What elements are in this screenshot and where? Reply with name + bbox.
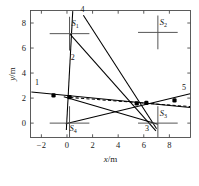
ray-line-5	[66, 94, 190, 124]
data-point-marker	[51, 93, 55, 97]
data-point-marker	[67, 95, 71, 99]
y-tick-label: 0	[22, 118, 26, 128]
line-label-3: 3	[145, 124, 149, 133]
y-tick-label: 6	[22, 43, 26, 53]
x-tick-label: −2	[37, 140, 46, 150]
station-label-S1: S1	[72, 18, 79, 29]
station-crosshair-S2	[138, 16, 178, 50]
x-tick-label: 2	[90, 140, 94, 150]
tick-labels: −20246802468	[22, 18, 172, 150]
x-axis-title: x/m	[103, 154, 118, 164]
data-point-marker	[135, 101, 139, 105]
scatter-plot: −20246802468 12345 S1S2S3S4 x/my/m	[0, 0, 199, 186]
line-label-5: 5	[182, 83, 186, 92]
data-point-marker	[144, 101, 148, 105]
station-label-S3: S3	[160, 108, 167, 119]
y-tick-label: 8	[22, 18, 26, 28]
x-tick-label: 4	[116, 140, 121, 150]
station-labels: S1S2S3S4	[70, 17, 168, 134]
y-axis-title: y/m	[7, 67, 17, 82]
line-label-4: 4	[81, 5, 85, 14]
ray-line-3	[70, 34, 156, 131]
x-tick-label: 6	[142, 140, 146, 150]
x-tick-label: 0	[65, 140, 69, 150]
station-label-S2: S2	[160, 17, 167, 28]
figure-container: −20246802468 12345 S1S2S3S4 x/my/m	[0, 0, 199, 186]
line-label-1: 1	[35, 78, 39, 87]
data-point-marker	[172, 98, 176, 102]
station-label-S4: S4	[70, 123, 77, 134]
line-label-2: 2	[71, 53, 75, 62]
y-tick-label: 4	[22, 68, 27, 78]
y-tick-label: 2	[22, 93, 26, 103]
x-tick-label: 8	[167, 140, 171, 150]
station-crosshair-S1	[50, 17, 90, 51]
